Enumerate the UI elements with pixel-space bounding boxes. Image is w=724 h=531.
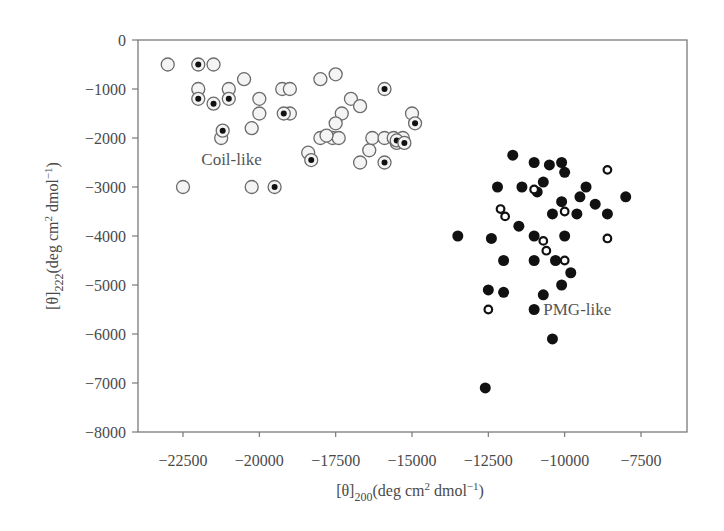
open-circle-marker [329, 117, 342, 130]
filled-circle-marker [529, 231, 540, 242]
open-circle-marker [539, 237, 547, 245]
open-circle-marker [253, 107, 266, 120]
open-circle-marker [329, 68, 342, 81]
filled-circle-marker [492, 182, 503, 193]
filled-circle-marker [483, 284, 494, 295]
filled-circle-marker [544, 159, 555, 170]
open-circle-marker [485, 306, 493, 314]
data-points [161, 58, 631, 393]
open-circle-marker [501, 213, 509, 221]
filled-circle-marker [507, 150, 518, 161]
series-filled-circle [452, 150, 631, 394]
x-tick-label: −12500 [464, 452, 513, 469]
marker-dot [382, 86, 388, 92]
open-circle-marker [354, 156, 367, 169]
filled-circle-marker [559, 167, 570, 178]
filled-circle-marker [550, 255, 561, 266]
y-axis-title: [θ]222(deg cm2 dmol−1) [42, 162, 66, 310]
x-axis-ticks: −22500−20000−17500−15000−12500−10000−750… [158, 432, 661, 469]
y-tick-label: −4000 [85, 228, 126, 245]
x-tick-label: −10000 [540, 452, 589, 469]
annotation-pmg-like: PMG-like [543, 300, 611, 319]
series-open-circle [161, 58, 418, 194]
y-tick-label: −7000 [85, 375, 126, 392]
open-circle-marker [561, 257, 569, 265]
marker-dot [220, 128, 226, 134]
filled-circle-marker [529, 255, 540, 266]
y-tick-label: −6000 [85, 326, 126, 343]
open-circle-marker [177, 181, 190, 194]
filled-circle-marker [556, 280, 567, 291]
marker-dot [195, 96, 201, 102]
filled-circle-marker [452, 231, 463, 242]
open-circle-marker [604, 166, 612, 174]
open-circle-marker [530, 186, 538, 194]
marker-dot [382, 160, 388, 166]
filled-circle-marker [529, 304, 540, 315]
filled-circle-marker [620, 191, 631, 202]
y-tick-label: −1000 [85, 81, 126, 98]
x-tick-label: −22500 [158, 452, 207, 469]
marker-dot [412, 120, 418, 126]
filled-circle-marker [480, 382, 491, 393]
open-circle-marker [207, 58, 220, 71]
x-axis-title: [θ]200(deg cm2 dmol−1) [336, 480, 484, 504]
filled-circle-marker [498, 255, 509, 266]
annotations: Coil-likePMG-like [201, 150, 611, 318]
filled-circle-marker [498, 287, 509, 298]
open-circle-marker [354, 100, 367, 113]
filled-circle-marker [538, 177, 549, 188]
filled-circle-marker [590, 199, 601, 210]
open-circle-marker [283, 83, 296, 96]
marker-dot [211, 101, 217, 107]
open-circle-marker [497, 205, 505, 213]
filled-circle-marker [556, 157, 567, 168]
marker-dot [401, 140, 407, 146]
filled-circle-marker [559, 231, 570, 242]
open-circle-marker [314, 73, 327, 86]
series-dot-in-circle [192, 58, 422, 194]
filled-circle-marker [547, 208, 558, 219]
open-circle-marker [161, 58, 174, 71]
open-circle-marker [604, 235, 612, 243]
filled-circle-marker [513, 221, 524, 232]
scatter-chart: 0−1000−2000−3000−4000−5000−6000−7000−800… [0, 0, 724, 531]
open-circle-marker [320, 129, 333, 142]
filled-circle-marker [571, 208, 582, 219]
open-circle-marker [238, 73, 251, 86]
open-circle-marker [363, 144, 376, 157]
filled-circle-marker [581, 182, 592, 193]
filled-circle-marker [516, 182, 527, 193]
y-tick-label: 0 [118, 32, 126, 49]
filled-circle-marker [574, 191, 585, 202]
open-circle-marker [253, 92, 266, 105]
marker-dot [226, 96, 232, 102]
annotation-coil-like: Coil-like [201, 150, 261, 169]
marker-dot [281, 111, 287, 117]
filled-circle-marker [529, 157, 540, 168]
x-tick-label: −15000 [387, 452, 436, 469]
y-tick-label: −2000 [85, 130, 126, 147]
y-axis-ticks: 0−1000−2000−3000−4000−5000−6000−7000−800… [85, 32, 138, 441]
y-tick-label: −3000 [85, 179, 126, 196]
y-tick-label: −8000 [85, 424, 126, 441]
marker-dot [308, 157, 314, 163]
x-tick-label: −17500 [311, 452, 360, 469]
marker-dot [195, 62, 201, 68]
filled-circle-marker [556, 196, 567, 207]
open-circle-marker [332, 132, 345, 145]
filled-circle-marker [565, 267, 576, 278]
open-circle-marker [366, 132, 379, 145]
x-tick-label: −20000 [235, 452, 284, 469]
open-circle-marker [245, 122, 258, 135]
open-circle-marker [245, 181, 258, 194]
y-tick-label: −5000 [85, 277, 126, 294]
open-circle-marker [561, 208, 569, 216]
filled-circle-marker [547, 333, 558, 344]
filled-circle-marker [602, 208, 613, 219]
marker-dot [272, 184, 278, 190]
x-tick-label: −7500 [620, 452, 661, 469]
filled-circle-marker [486, 233, 497, 244]
open-circle-marker [543, 247, 551, 255]
